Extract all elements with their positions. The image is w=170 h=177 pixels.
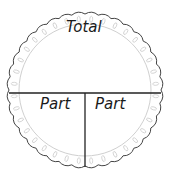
part-label-left: Part	[40, 97, 70, 112]
part-label-right: Part	[95, 97, 125, 112]
total-label: Total	[66, 20, 102, 35]
